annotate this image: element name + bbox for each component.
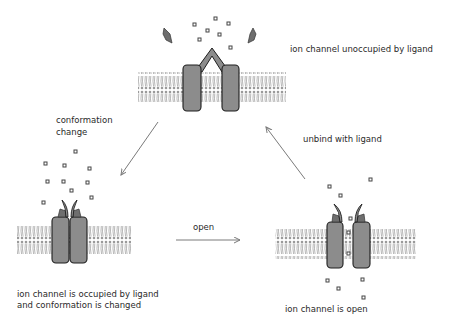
ligand-bound-icon	[58, 209, 66, 217]
channel-subunit-left	[327, 222, 343, 268]
label-unbind: unbind with ligand	[303, 134, 382, 145]
ion-dots-left	[42, 150, 93, 204]
ligand-bound-icon	[73, 209, 81, 217]
label-open-state: ion channel is open	[285, 304, 368, 315]
label-conformation-line1: conformation	[56, 115, 113, 126]
ion-dots-top	[193, 17, 232, 49]
label-open-transition: open	[193, 222, 214, 233]
channel-subunit-right	[70, 217, 87, 263]
ligand-icon	[248, 28, 256, 43]
channel-subunit-right	[353, 222, 370, 268]
label-conformation-line2: change	[56, 127, 87, 138]
label-occupied-line1: ion channel is occupied by ligand	[17, 289, 159, 300]
membrane-right	[275, 229, 416, 259]
ligand-icon	[163, 28, 172, 43]
ligand-bound-icon	[357, 214, 365, 222]
state-open	[275, 178, 416, 299]
label-occupied-line2: and conformation is changed	[17, 300, 141, 311]
state-occupied	[17, 150, 131, 263]
channel-subunit-left	[183, 65, 201, 111]
arrow-conformation-change	[121, 122, 158, 175]
membrane-top	[138, 72, 286, 102]
arrow-unbind	[266, 127, 305, 179]
channel-subunit-right	[222, 65, 239, 111]
label-unoccupied: ion channel unoccupied by ligand	[290, 44, 433, 55]
state-unoccupied	[138, 17, 286, 111]
channel-subunit-left	[52, 217, 69, 263]
